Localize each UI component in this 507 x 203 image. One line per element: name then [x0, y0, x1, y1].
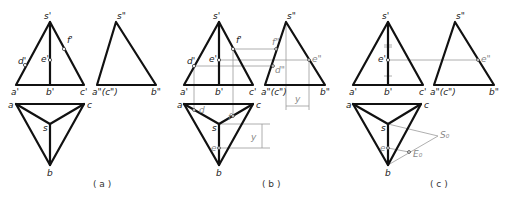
label-s-double-prime: s"	[456, 11, 465, 21]
three-view-projection-figure: s' d' e' f' a' b' c' s" a"(c") b" a c s …	[0, 0, 507, 203]
point-e-prime	[217, 58, 220, 61]
label-e-double-prime: e"	[481, 54, 491, 64]
label-c-prime: c'	[80, 87, 87, 97]
panel-a: s' d' e' f' a' b' c' s" a"(c") b" a c s …	[8, 11, 161, 189]
label-b-double-prime: b"	[320, 87, 330, 97]
top-view-a: a c s b	[8, 100, 92, 178]
point-E0	[408, 151, 411, 154]
front-view-b: s' d' e' f' a' b' c'	[180, 11, 256, 97]
label-a-prime: a'	[349, 87, 357, 97]
label-a-c-double-prime: a"(c")	[261, 87, 287, 97]
front-view-c: s' e' a' b' c'	[349, 11, 426, 97]
label-a-prime: a'	[11, 87, 19, 97]
point-f-prime	[231, 47, 234, 50]
label-s-prime: s'	[44, 11, 51, 21]
label-e-double-prime: e"	[312, 54, 322, 64]
label-b-double-prime: b"	[489, 87, 499, 97]
label-s: s	[381, 123, 386, 133]
point-e	[387, 147, 390, 150]
caption-a: ( a )	[93, 179, 111, 189]
point-f-prime	[62, 47, 65, 50]
top-view-b: a c d f s e b y	[177, 100, 261, 178]
point-f-double-prime	[275, 48, 278, 51]
label-b: b	[47, 168, 53, 178]
label-d-double-prime: d"	[275, 65, 285, 75]
point-e-double-prime	[308, 59, 311, 62]
label-b-prime: b'	[384, 87, 392, 97]
label-s-prime: s'	[382, 11, 389, 21]
label-e-prime: e'	[378, 54, 386, 64]
caption-b: ( b )	[262, 179, 280, 189]
point-e	[218, 147, 221, 150]
caption-c: ( c )	[430, 179, 448, 189]
label-a: a	[177, 100, 183, 110]
label-e-prime: e'	[41, 54, 49, 64]
top-view-c: a c s e S₀ E₀ b	[346, 100, 450, 178]
label-y-side: y	[294, 94, 301, 104]
label-b-double-prime: b"	[151, 87, 161, 97]
label-b-prime: b'	[46, 87, 54, 97]
point-d	[193, 109, 196, 112]
label-e-prime: e'	[209, 54, 217, 64]
label-a: a	[346, 100, 352, 110]
label-e: e	[211, 143, 217, 153]
label-s: s	[212, 123, 217, 133]
label-c: c	[424, 100, 429, 110]
panel-c: s' e' a' b' c' s" e" a"(c") b" a c s e	[346, 11, 499, 189]
label-d: d	[199, 105, 205, 115]
label-a-c-double-prime: a"(c")	[430, 87, 456, 97]
point-e-prime	[386, 58, 389, 61]
label-s-double-prime: s"	[117, 11, 126, 21]
label-f-prime: f'	[236, 35, 242, 45]
label-S0: S₀	[440, 130, 450, 140]
label-a-prime: a'	[180, 87, 188, 97]
side-view-b: s" f" e" d" a"(c") b" y	[261, 11, 330, 104]
label-E0: E₀	[413, 149, 423, 159]
label-d-prime: d'	[18, 56, 26, 66]
label-c: c	[256, 100, 261, 110]
side-triangle	[97, 22, 156, 85]
label-d-prime: d'	[187, 56, 195, 66]
label-f-prime: f'	[67, 35, 73, 45]
label-e: e	[380, 143, 386, 153]
side-view-a: s" a"(c") b"	[92, 11, 161, 97]
label-s-prime: s'	[213, 11, 220, 21]
label-b: b	[385, 168, 391, 178]
label-b: b	[216, 168, 222, 178]
label-a-c-double-prime: a"(c")	[92, 87, 118, 97]
side-view-c: s" e" a"(c") b"	[430, 11, 499, 97]
label-c-prime: c'	[249, 87, 256, 97]
label-f-double-prime: f"	[272, 37, 279, 47]
label-c: c	[87, 100, 92, 110]
front-view-a: s' d' e' f' a' b' c'	[11, 11, 87, 97]
point-e-double-prime	[477, 59, 480, 62]
label-c-prime: c'	[419, 87, 426, 97]
point-d-double-prime	[272, 65, 275, 68]
panel-b: s' d' e' f' a' b' c' s" f" e" d" a"(c") …	[177, 11, 330, 189]
label-s: s	[43, 123, 48, 133]
point-f	[232, 115, 235, 118]
label-b-prime: b'	[215, 87, 223, 97]
label-a: a	[8, 100, 14, 110]
label-s-double-prime: s"	[287, 11, 296, 21]
label-y-top: y	[250, 132, 257, 142]
